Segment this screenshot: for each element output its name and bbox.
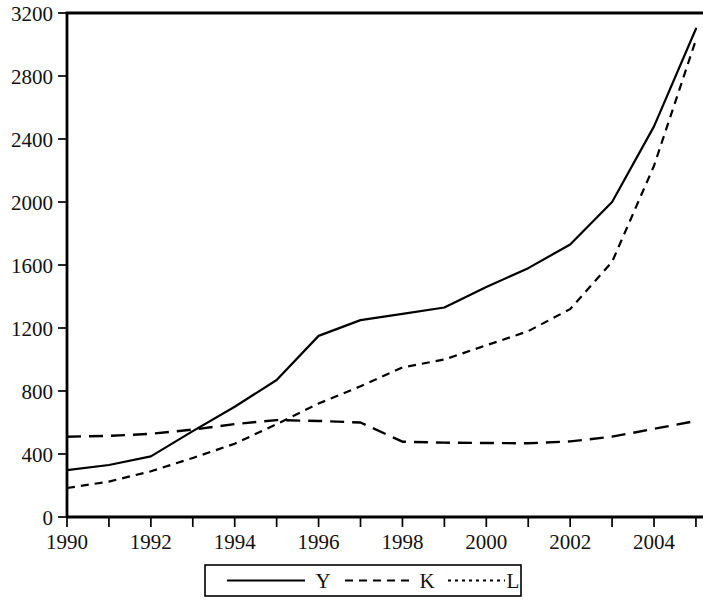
y-tick-label: 3200 (11, 2, 53, 26)
y-tick-label: 400 (22, 443, 54, 467)
y-tick-label: 1200 (11, 317, 53, 341)
chart-figure: 0400800120016002000240028003200 19901992… (0, 0, 703, 601)
legend-label-k: K (419, 569, 434, 593)
x-tick-label: 1994 (214, 530, 257, 554)
y-tick-label: 1600 (11, 254, 53, 278)
y-tick-label: 2400 (11, 128, 53, 152)
y-tick-label: 2000 (11, 191, 53, 215)
chart-background (0, 0, 703, 601)
x-tick-label: 1992 (130, 530, 172, 554)
x-tick-label: 2000 (465, 530, 507, 554)
x-tick-label: 2004 (633, 530, 676, 554)
y-tick-label: 800 (22, 380, 54, 404)
x-tick-label: 1996 (298, 530, 340, 554)
legend-label-y: Y (315, 569, 330, 593)
line-chart: 0400800120016002000240028003200 19901992… (0, 0, 703, 601)
x-tick-label: 2002 (549, 530, 591, 554)
y-tick-label: 2800 (11, 65, 53, 89)
chart-legend: YKL (205, 565, 521, 596)
x-tick-label: 1990 (46, 530, 88, 554)
legend-label-l: L (507, 569, 520, 593)
y-tick-label: 0 (43, 506, 54, 530)
x-tick-label: 1998 (381, 530, 423, 554)
